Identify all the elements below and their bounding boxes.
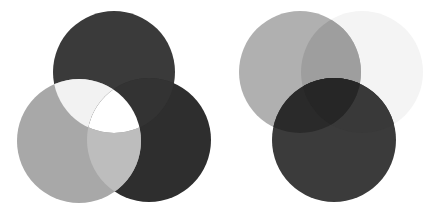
circles-canvas bbox=[0, 0, 423, 216]
color-mixing-diagram bbox=[0, 0, 423, 216]
subtractive-group bbox=[239, 11, 423, 202]
additive-group bbox=[0, 0, 220, 216]
